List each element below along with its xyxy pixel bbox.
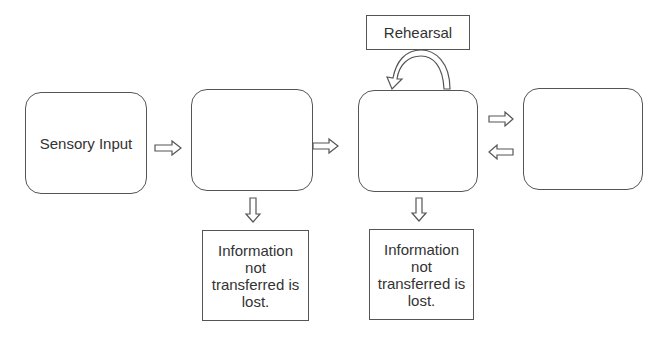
rehearsal-box: Rehearsal	[366, 15, 470, 50]
sensory-input-box: Sensory Input	[25, 92, 147, 194]
down-arrow-icon	[246, 198, 260, 222]
sensory-input-label: Sensory Input	[40, 135, 133, 152]
stage-2-box	[191, 89, 313, 191]
down-arrow-icon	[412, 198, 426, 221]
right-arrow-icon	[489, 112, 513, 126]
right-arrow-icon	[155, 141, 181, 155]
rehearsal-label: Rehearsal	[384, 24, 452, 41]
loss-note-2: Information not transferred is lost.	[369, 229, 474, 320]
stage-4-box	[523, 88, 643, 190]
loss-note-2-text: Information not transferred is lost.	[378, 241, 466, 309]
loss-note-1-text: Information not transferred is lost.	[212, 242, 300, 310]
loss-note-1: Information not transferred is lost.	[202, 230, 309, 321]
left-arrow-icon	[489, 145, 513, 159]
curved-loop-arrow-icon	[387, 50, 450, 89]
right-arrow-icon	[313, 139, 338, 153]
stage-3-box	[358, 90, 478, 192]
